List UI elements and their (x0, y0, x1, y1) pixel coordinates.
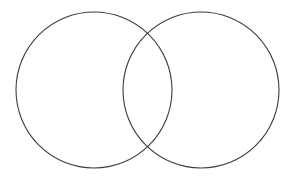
venn-circle-right (123, 12, 279, 168)
venn-diagram-canvas (0, 0, 296, 180)
venn-circle-left (16, 12, 172, 168)
venn-diagram-svg (0, 0, 296, 180)
